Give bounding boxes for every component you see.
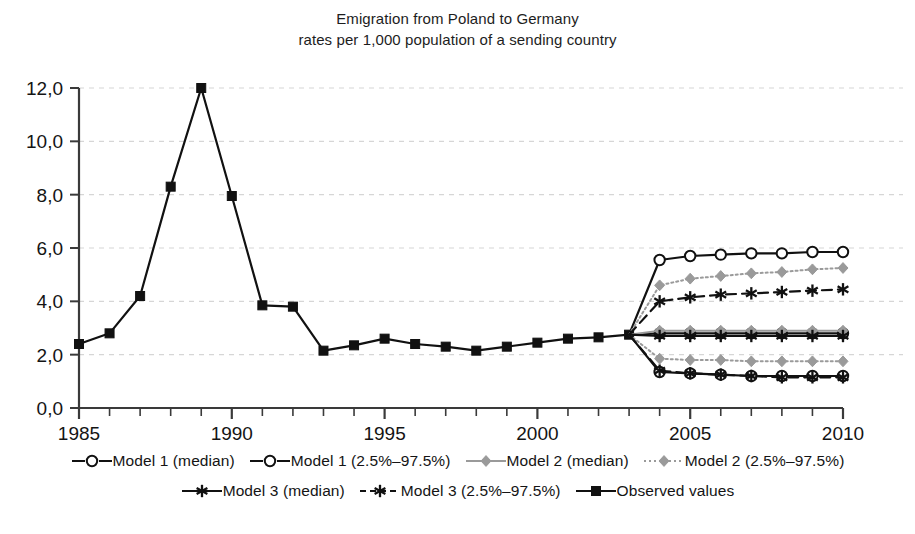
- data-point-marker: [197, 84, 206, 93]
- data-point-marker: [86, 456, 96, 466]
- data-point-marker: [533, 338, 542, 347]
- y-axis-tick-label: 8,0: [37, 185, 63, 206]
- series-model-2-2-5: [629, 335, 848, 367]
- legend-item-label: Model 3 (median): [223, 482, 345, 500]
- data-point-marker: [502, 342, 511, 351]
- legend-key-line-diamond-dotted-gray: [643, 452, 685, 470]
- legend-key-line-star-dashed-black: [359, 482, 401, 500]
- legend-key-line-open-circle-solid-black: [71, 452, 113, 470]
- data-point-marker: [807, 264, 817, 275]
- legend-item-label: Model 1 (median): [113, 452, 235, 470]
- series-observed-values: [75, 84, 634, 356]
- data-point-marker: [716, 271, 726, 282]
- data-point-marker: [136, 292, 145, 301]
- y-axis: 0,02,04,06,08,010,012,0: [26, 78, 79, 419]
- series-model-2-97-5: [629, 263, 848, 335]
- legend-item-label: Model 2 (median): [507, 452, 629, 470]
- x-axis: 198519901995200020052010: [58, 408, 864, 444]
- y-axis-tick-label: 10,0: [26, 131, 63, 152]
- legend-item-label: Observed values: [617, 482, 735, 500]
- legend-item[interactable]: Model 1 (median): [71, 452, 235, 470]
- data-point-marker: [807, 247, 817, 257]
- data-point-marker: [716, 355, 726, 366]
- data-point-marker: [777, 248, 787, 258]
- data-point-marker: [838, 356, 848, 367]
- data-point-marker: [411, 340, 420, 349]
- series-model-3-97-5: [629, 283, 848, 335]
- data-point-marker: [319, 346, 328, 355]
- legend-item[interactable]: Model 3 (2.5%–97.5%): [359, 482, 561, 500]
- data-point-marker: [105, 329, 114, 338]
- data-point-marker: [807, 356, 817, 367]
- legend-row: Model 1 (median)Model 1 (2.5%–97.5%)Mode…: [0, 446, 915, 476]
- data-point-marker: [591, 487, 600, 496]
- chart-legend: Model 1 (median)Model 1 (2.5%–97.5%)Mode…: [0, 446, 915, 506]
- series-line: [79, 88, 629, 351]
- legend-item-label: Model 1 (2.5%–97.5%): [291, 452, 451, 470]
- data-series: [75, 84, 849, 384]
- y-axis-tick-label: 0,0: [37, 398, 63, 419]
- legend-key-line-square-solid-black: [575, 482, 617, 500]
- data-point-marker: [777, 356, 787, 367]
- data-point-marker: [265, 456, 275, 466]
- data-point-marker: [594, 333, 603, 342]
- legend-key-line-open-circle-solid-black: [249, 452, 291, 470]
- data-point-marker: [655, 280, 665, 291]
- chart-figure: Emigration from Poland to Germany rates …: [0, 0, 915, 534]
- legend-item-label: Model 2 (2.5%–97.5%): [685, 452, 845, 470]
- legend-item-label: Model 3 (2.5%–97.5%): [401, 482, 561, 500]
- legend-row: Model 3 (median)Model 3 (2.5%–97.5%)Obse…: [0, 476, 915, 506]
- data-point-marker: [654, 255, 664, 265]
- data-point-marker: [838, 263, 848, 274]
- data-point-marker: [563, 334, 572, 343]
- legend-item[interactable]: Model 2 (median): [465, 452, 629, 470]
- data-point-marker: [746, 356, 756, 367]
- data-point-marker: [777, 267, 787, 278]
- data-point-marker: [685, 273, 695, 284]
- data-point-marker: [685, 251, 695, 261]
- y-axis-tick-label: 6,0: [37, 238, 63, 259]
- data-point-marker: [75, 340, 84, 349]
- data-point-marker: [258, 301, 267, 310]
- plot-area: 0,02,04,06,08,010,012,0 1985199019952000…: [0, 0, 915, 446]
- gridlines: [79, 88, 903, 355]
- x-axis-tick-label: 1985: [58, 423, 100, 444]
- data-point-marker: [288, 302, 297, 311]
- legend-key-line-diamond-solid-gray: [465, 452, 507, 470]
- data-point-marker: [746, 268, 756, 279]
- data-point-marker: [716, 249, 726, 259]
- legend-item[interactable]: Observed values: [575, 482, 735, 500]
- data-point-marker: [659, 456, 669, 467]
- data-point-marker: [838, 247, 848, 257]
- data-point-marker: [685, 355, 695, 366]
- data-point-marker: [441, 342, 450, 351]
- y-axis-tick-label: 12,0: [26, 78, 63, 99]
- x-axis-tick-label: 2010: [822, 423, 864, 444]
- data-point-marker: [166, 182, 175, 191]
- y-axis-tick-label: 4,0: [37, 291, 63, 312]
- legend-item[interactable]: Model 3 (median): [181, 482, 345, 500]
- data-point-marker: [380, 334, 389, 343]
- data-point-marker: [746, 248, 756, 258]
- data-point-marker: [481, 456, 491, 467]
- legend-item[interactable]: Model 1 (2.5%–97.5%): [249, 452, 451, 470]
- x-axis-tick-label: 1995: [363, 423, 405, 444]
- x-axis-tick-label: 2000: [516, 423, 558, 444]
- data-point-marker: [227, 192, 236, 201]
- x-axis-tick-label: 2005: [669, 423, 711, 444]
- legend-key-line-star-solid-black: [181, 482, 223, 500]
- x-axis-tick-label: 1990: [211, 423, 253, 444]
- legend-item[interactable]: Model 2 (2.5%–97.5%): [643, 452, 845, 470]
- y-axis-tick-label: 2,0: [37, 345, 63, 366]
- data-point-marker: [350, 341, 359, 350]
- data-point-marker: [472, 346, 481, 355]
